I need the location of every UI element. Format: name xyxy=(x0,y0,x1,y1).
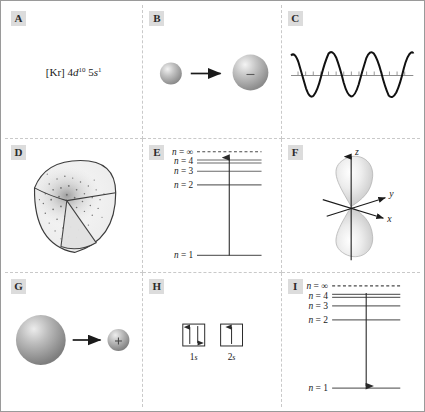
p-orbital-lobe-top xyxy=(336,156,373,206)
large-sphere xyxy=(16,315,66,365)
panel-i[interactable]: I n = ∞ n = 4 n = 3 n = 2 n = 1 xyxy=(282,273,420,407)
p-orbital-lobe-bottom xyxy=(336,206,373,256)
level-label-infinity: n = ∞ xyxy=(172,147,194,157)
level-label-4: n = 4 xyxy=(308,291,328,301)
level-label-1: n = 1 xyxy=(308,383,328,393)
p-orbital-graphic: z y x xyxy=(282,139,420,272)
large-sphere-anion xyxy=(233,55,269,91)
orbital-cutaway-graphic xyxy=(5,139,142,272)
level-label-infinity: n = ∞ xyxy=(306,281,328,291)
electron-configuration-text: [Kr] 4d10 5s1 xyxy=(5,65,142,78)
panel-grid: A [Kr] 4d10 5s1 B xyxy=(5,5,420,407)
figure-frame: A [Kr] 4d10 5s1 B xyxy=(0,0,425,412)
sine-wave-curve xyxy=(291,52,413,97)
axis-label-z: z xyxy=(354,146,359,157)
wave-axis xyxy=(291,72,413,76)
term2-count: 1 xyxy=(98,65,102,73)
noble-gas-core: [Kr] xyxy=(46,66,65,78)
wave-graphic xyxy=(282,5,420,138)
anion-formation-graphic xyxy=(143,5,280,138)
panel-f[interactable]: F xyxy=(282,139,420,273)
axis-label-x: x xyxy=(386,213,392,224)
panel-a[interactable]: A [Kr] 4d10 5s1 xyxy=(5,5,143,139)
level-label-2: n = 2 xyxy=(308,315,328,325)
axis-label-y: y xyxy=(388,188,394,199)
level-label-3: n = 3 xyxy=(308,301,328,311)
energy-level-absorption-graphic: n = ∞ n = 4 n = 3 n = 2 n = 1 xyxy=(143,139,280,272)
cation-formation-graphic xyxy=(5,273,142,407)
panel-h[interactable]: H xyxy=(143,273,281,407)
panel-b[interactable]: B xyxy=(143,5,281,139)
panel-d[interactable]: D xyxy=(5,139,143,273)
orbital-diagram-graphic: 1s 2s xyxy=(143,273,280,407)
small-sphere xyxy=(160,63,182,85)
panel-g[interactable]: G xyxy=(5,273,143,407)
level-label-3: n = 3 xyxy=(174,166,194,176)
orbital-box-1s xyxy=(183,324,205,346)
panel-c[interactable]: C xyxy=(282,5,420,139)
panel-label-a: A xyxy=(11,11,26,26)
term1-count: 10 xyxy=(78,65,85,73)
orbital-label-2s: 2s xyxy=(228,352,236,362)
level-label-1: n = 1 xyxy=(174,250,194,260)
energy-level-emission-graphic: n = ∞ n = 4 n = 3 n = 2 n = 1 xyxy=(282,273,420,407)
orbital-label-1s: 1s xyxy=(190,352,198,362)
level-label-4: n = 4 xyxy=(174,156,194,166)
level-label-2: n = 2 xyxy=(174,180,194,190)
panel-e[interactable]: E n = ∞ n = 4 n = 3 n = 2 n = 1 xyxy=(143,139,281,273)
